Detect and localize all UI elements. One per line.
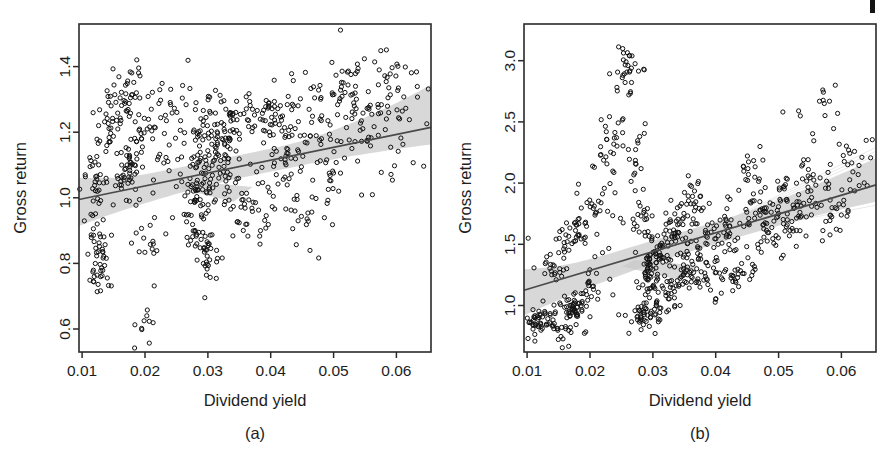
data-point [589, 295, 593, 299]
data-point [204, 273, 208, 277]
data-point [116, 127, 120, 131]
data-point [146, 94, 150, 98]
data-point [783, 229, 787, 233]
data-point [104, 149, 108, 153]
data-point [290, 72, 294, 76]
data-point [821, 229, 825, 233]
data-point [143, 250, 147, 254]
data-point [311, 178, 315, 182]
data-point [753, 175, 757, 179]
data-point [626, 147, 630, 151]
data-point [235, 99, 239, 103]
x-axis-title: Dividend yield [204, 391, 307, 409]
data-point [137, 113, 141, 117]
data-point [689, 280, 693, 284]
data-point [711, 266, 715, 270]
data-point [201, 108, 205, 112]
data-point [326, 187, 330, 191]
data-point [101, 218, 105, 222]
data-point [797, 109, 801, 113]
data-point [584, 304, 588, 308]
data-point [172, 106, 176, 110]
data-point [134, 152, 138, 156]
data-point [607, 246, 611, 250]
data-point [103, 243, 107, 247]
data-point [241, 228, 245, 232]
data-point [338, 28, 342, 32]
data-point [289, 172, 293, 176]
data-point [92, 240, 96, 244]
data-point [837, 142, 841, 146]
data-point [159, 116, 163, 120]
data-point [870, 138, 874, 142]
data-point [719, 291, 723, 295]
data-point [167, 143, 171, 147]
data-point [390, 178, 394, 182]
data-point [800, 177, 804, 181]
data-point [246, 234, 250, 238]
data-point [771, 237, 775, 241]
panel-b: 0.010.020.030.040.050.061.01.52.02.53.0D… [445, 0, 890, 460]
data-point [218, 93, 222, 97]
data-point [650, 214, 654, 218]
data-point [763, 186, 767, 190]
data-point [552, 303, 556, 307]
data-point [602, 186, 606, 190]
data-point [285, 183, 289, 187]
y-axis-title: Gross return [456, 142, 474, 234]
data-point [758, 200, 762, 204]
data-point [608, 72, 612, 76]
data-point [575, 191, 579, 195]
data-point [746, 167, 750, 171]
data-point [627, 157, 631, 161]
data-point [595, 232, 599, 236]
data-point [669, 198, 673, 202]
data-point [338, 171, 342, 175]
data-point [838, 228, 842, 232]
data-point [567, 248, 571, 252]
data-point [160, 81, 164, 85]
data-point [753, 165, 757, 169]
data-point [606, 209, 610, 213]
data-point [215, 248, 219, 252]
data-point [291, 227, 295, 231]
data-point [690, 275, 694, 279]
data-point [647, 324, 651, 328]
data-point [708, 288, 712, 292]
panel-a: 0.010.020.030.040.050.060.60.81.01.21.4D… [0, 0, 445, 460]
data-point [334, 73, 338, 77]
data-point [326, 119, 330, 123]
data-point [759, 190, 763, 194]
data-point [258, 234, 262, 238]
data-point [746, 256, 750, 260]
data-point [271, 194, 275, 198]
data-point [291, 79, 295, 83]
data-point [384, 48, 388, 52]
data-point [119, 150, 123, 154]
data-point [751, 192, 755, 196]
data-point [178, 128, 182, 132]
data-point [353, 84, 357, 88]
x-tick-label: 0.02 [130, 362, 160, 379]
data-point [707, 201, 711, 205]
x-tick-label: 0.06 [826, 362, 856, 379]
data-point [608, 182, 612, 186]
data-point [257, 208, 261, 212]
data-point [583, 241, 587, 245]
panel-caption: (a) [245, 424, 265, 442]
data-point [343, 90, 347, 94]
x-tick-label: 0.04 [701, 362, 732, 379]
data-point [781, 110, 785, 114]
data-point [287, 128, 291, 132]
y-tick-label: 1.0 [501, 294, 518, 316]
data-point [203, 234, 207, 238]
data-point [403, 65, 407, 69]
data-point [361, 111, 365, 115]
data-point [727, 242, 731, 246]
data-point [98, 108, 102, 112]
data-point [261, 181, 265, 185]
data-point [635, 224, 639, 228]
data-point [360, 193, 364, 197]
data-point [139, 226, 143, 230]
data-point [573, 228, 577, 232]
